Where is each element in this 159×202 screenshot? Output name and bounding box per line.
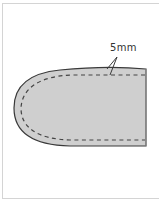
seam-allowance-label: 5mm <box>110 42 137 53</box>
pattern-diagram: 5mm <box>0 0 159 202</box>
pattern-piece-shape <box>14 67 146 146</box>
